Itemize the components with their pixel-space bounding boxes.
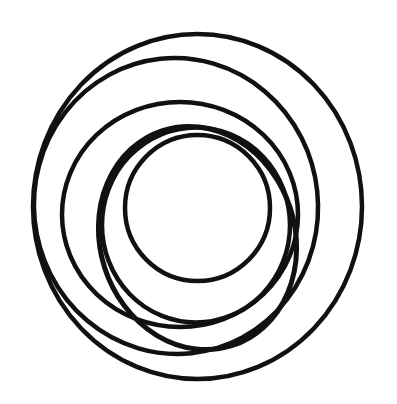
rings-svg bbox=[0, 0, 397, 404]
concentric-rings-figure bbox=[0, 0, 397, 404]
